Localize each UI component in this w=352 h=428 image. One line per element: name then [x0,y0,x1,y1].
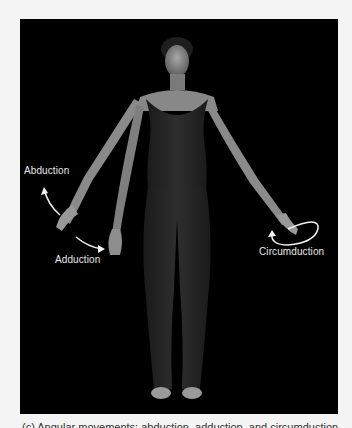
figure-caption: (c) Angular movements: abduction, adduct… [22,419,352,428]
left-foot [151,387,171,399]
right-arm [206,103,290,225]
label-abduction: Abduction [24,165,69,176]
label-circumduction: Circumduction [259,246,324,257]
caption-text: (c) Angular movements: abduction, adduct… [22,421,352,428]
right-foot [182,387,202,399]
human-figure-illustration [20,19,338,414]
legs [143,187,210,389]
head [165,45,189,77]
anatomy-photo: Abduction Adduction Circumduction [20,19,338,414]
torso [146,99,208,189]
label-adduction: Adduction [55,254,100,265]
